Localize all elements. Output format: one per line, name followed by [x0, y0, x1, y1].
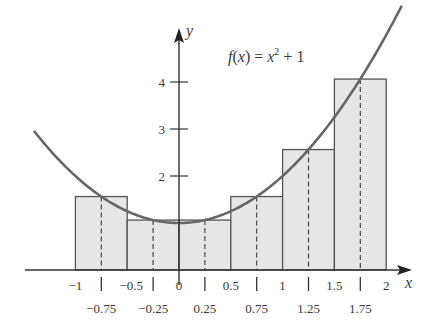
x-tick-label: 0: [176, 278, 183, 293]
x-midpoint-label: −0.75: [86, 301, 116, 316]
y-axis-label: y: [184, 22, 194, 40]
x-tick-label: −0.5: [119, 278, 143, 293]
x-midpoint-label: 1.25: [297, 301, 320, 316]
x-tick-label: 1: [279, 278, 286, 293]
y-tick-label: 3: [159, 122, 166, 137]
y-ticks: 234: [159, 75, 189, 184]
y-tick-label: 2: [159, 169, 166, 184]
riemann-sum-chart: 234 −1−0.500.511.52−0.75−0.250.250.751.2…: [0, 0, 434, 329]
x-axis-label: x: [404, 274, 412, 291]
x-midpoint-label: 1.75: [349, 301, 372, 316]
x-midpoint-label: 0.75: [245, 301, 268, 316]
x-ticks: −1−0.500.511.52−0.75−0.250.250.751.251.7…: [68, 277, 389, 316]
y-tick-label: 4: [159, 75, 166, 90]
x-midpoint-label: −0.25: [138, 301, 168, 316]
x-midpoint-label: 0.25: [194, 301, 217, 316]
x-tick-label: 2: [383, 278, 390, 293]
function-label: f(x) = x2 + 1: [228, 46, 304, 66]
x-tick-label: 0.5: [223, 278, 239, 293]
x-tick-label: −1: [68, 278, 82, 293]
riemann-rectangles: [75, 79, 386, 270]
x-tick-label: 1.5: [326, 278, 342, 293]
